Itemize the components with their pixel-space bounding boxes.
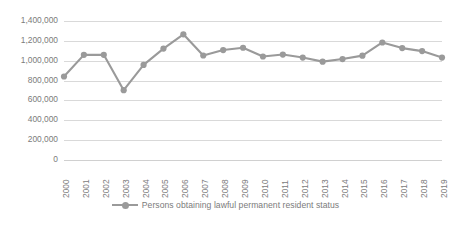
series-data-point [121, 87, 127, 93]
series-data-point [140, 62, 146, 68]
series-data-point [359, 53, 365, 59]
line-chart: 1,400,0001,200,0001,000,000800,000600,00… [0, 0, 451, 231]
series-data-point [240, 45, 246, 51]
series-data-point [379, 39, 385, 45]
series-data-point [81, 52, 87, 58]
series-data-point [180, 31, 186, 37]
series-data-point [220, 47, 226, 53]
series-data-point [399, 45, 405, 51]
series-data-point [439, 54, 445, 60]
series-data-point [300, 54, 306, 60]
legend-line-marker-icon [112, 200, 138, 210]
series-data-point [419, 48, 425, 54]
series-data-point [339, 56, 345, 62]
series-data-point [280, 51, 286, 57]
series-data-point [160, 45, 166, 51]
legend-marker-icon [122, 202, 129, 209]
series-layer [0, 0, 451, 231]
series-data-point [260, 53, 266, 59]
series-data-point [101, 52, 107, 58]
legend-label-persons-obtaining-lpr-status: Persons obtaining lawful permanent resid… [142, 200, 339, 210]
series-data-point [200, 52, 206, 58]
chart-legend: Persons obtaining lawful permanent resid… [0, 200, 451, 210]
series-data-point [61, 73, 67, 79]
series-data-point [320, 59, 326, 65]
